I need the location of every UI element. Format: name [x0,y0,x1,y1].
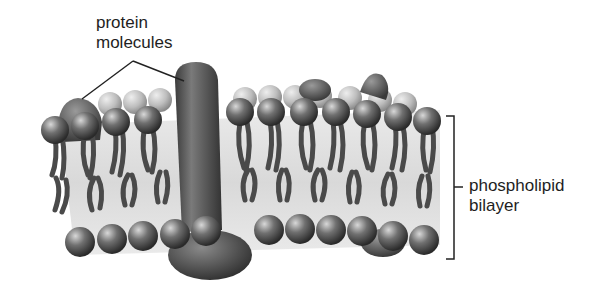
bilayer-label-line2: bilayer [469,196,564,216]
bilayer-bracket [446,116,463,259]
phospholipid-bilayer-label: phospholipid bilayer [469,176,564,216]
protein-label-line1: protein [96,13,173,33]
membrane-diagram: protein molecules phospholipid bilayer [0,0,614,300]
membrane-illustration [0,0,614,300]
protein-label-line2: molecules [96,33,173,53]
bilayer-label-line1: phospholipid [469,176,564,196]
protein-molecules-label: protein molecules [96,13,173,53]
